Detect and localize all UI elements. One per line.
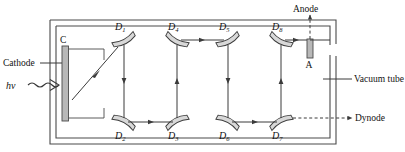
dynode-label-D4: D4 xyxy=(167,21,179,33)
cathode-symbol-label: C xyxy=(60,35,66,45)
dynode-label-D5: D5 xyxy=(218,21,230,33)
pmt-figure: C A xyxy=(0,0,405,152)
photon-label: hv xyxy=(6,80,16,91)
dynode-label-D3: D3 xyxy=(167,130,179,142)
anode-symbol-label: A xyxy=(306,60,313,70)
dynode-label: Dynode xyxy=(355,113,385,123)
vacuum-tube-label: Vacuum tube xyxy=(354,74,404,84)
anode-label: Anode xyxy=(293,4,318,14)
anode-plate xyxy=(307,39,313,58)
dynode-label-D2: D2 xyxy=(114,130,126,142)
dynode-labels: D1 D4 D5 D8 D2 D3 D6 D7 xyxy=(114,21,283,142)
dynode-label-D8: D8 xyxy=(271,21,283,33)
dynode-label-D1: D1 xyxy=(114,21,125,33)
electron-path xyxy=(72,38,307,124)
cathode-assembly: C xyxy=(60,35,104,121)
path-C-D1 xyxy=(72,47,118,100)
photon-input xyxy=(28,80,59,91)
dynode-label-D7: D7 xyxy=(271,130,283,142)
cathode-label: Cathode xyxy=(3,58,35,68)
anode-assembly: A xyxy=(306,15,314,70)
cathode-plate xyxy=(62,46,69,121)
dynode-group xyxy=(112,32,293,131)
pmt-schematic-svg: C A xyxy=(0,0,405,152)
dynode-label-D6: D6 xyxy=(218,130,230,142)
leader-lines xyxy=(40,40,352,118)
